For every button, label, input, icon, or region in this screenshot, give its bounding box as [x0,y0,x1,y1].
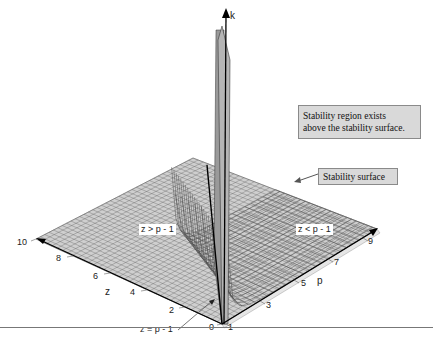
stability-region-callout: Stability region exists above the stabil… [298,105,421,139]
callout-region-line2: above the stability surface. [303,122,416,134]
callout-region-line1: Stability region exists [303,110,416,122]
z-tick-2: 2 [169,305,174,315]
surface-callout-arrow [298,174,318,181]
bottom-divider [0,327,433,328]
boundary-label: z = p - 1 [140,324,173,334]
p-tick-9: 9 [368,236,373,246]
stability-surface-callout: Stability surface [318,168,398,185]
p-axis-label: p [317,275,323,286]
p-tick-7: 7 [334,257,339,267]
k-axis-label: k [230,10,235,21]
p-tick-3: 3 [266,300,271,310]
region-label-left: z > p - 1 [139,224,176,235]
z-tick-10: 10 [17,237,27,247]
p-tick-5: 5 [301,278,306,288]
z-tick-4: 4 [130,287,135,297]
k-axis-arrow [222,8,230,18]
z-tick-6: 6 [93,271,98,281]
surface-callout-arrowhead [294,177,301,183]
region-label-right: z < p - 1 [296,224,333,235]
z-tick-8: 8 [56,253,61,263]
z-axis-label: z [105,286,110,297]
